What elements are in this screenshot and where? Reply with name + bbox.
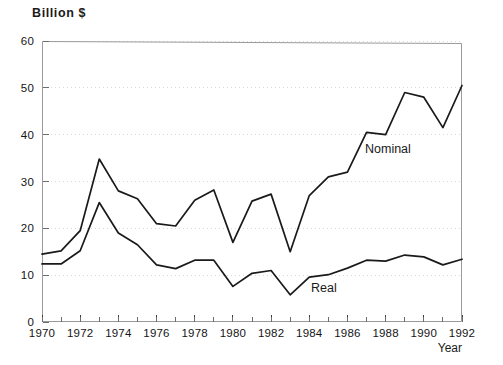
y-tick-label-50: 50 (8, 82, 34, 94)
plot-frame (43, 42, 462, 322)
data-series-group (42, 85, 462, 294)
x-tick-label-1992: 1992 (440, 327, 484, 339)
gridlines (43, 41, 461, 275)
series-label-real: Real (311, 281, 337, 295)
plot-border (43, 42, 462, 322)
chart-figure: Billion $ 0102030405060 1970197219741976… (0, 0, 503, 365)
series-label-nominal: Nominal (365, 142, 411, 156)
plot-svg (42, 41, 462, 322)
plot-area (42, 41, 462, 322)
y-tick-label-30: 30 (8, 176, 34, 188)
x-axis-title: Year (438, 341, 462, 355)
y-axis-ticks (43, 41, 50, 322)
y-tick-label-60: 60 (8, 35, 34, 47)
y-tick-label-40: 40 (8, 129, 34, 141)
y-tick-label-20: 20 (8, 222, 34, 234)
y-tick-label-10: 10 (8, 269, 34, 281)
x-axis-minor-ticks (42, 317, 462, 322)
y-axis-title: Billion $ (32, 6, 86, 20)
